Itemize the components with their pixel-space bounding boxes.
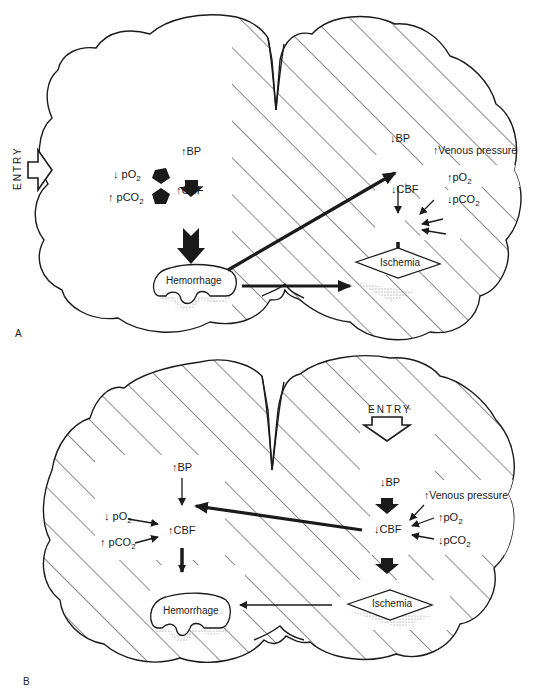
pco2-label-b-left: ↑ pCO2 (100, 537, 136, 551)
venous-label-a: ↑Venous pressure (433, 145, 517, 156)
bp-label-b-left: ↑BP (172, 462, 192, 473)
po2-label-b-left: ↓ pO2 (104, 511, 132, 525)
ischemia-label-a: Ischemia (380, 258, 420, 268)
bp-label-b-right: ↓BP (380, 477, 400, 488)
po2-label-b-right: ↑pO2 (438, 512, 463, 526)
entry-label-b: ENTRY (368, 404, 412, 415)
cbf-label-a-left: ↑CBF (176, 185, 204, 196)
venous-label-b: ↑Venous pressure (424, 490, 508, 501)
hemorrhage-label-b: Hemorrhage (163, 606, 219, 616)
panel-letter-b: B (23, 676, 30, 687)
hemorrhage-label-a: Hemorrhage (166, 276, 222, 286)
po2-label-a-left: ↓ pO2 (113, 169, 141, 183)
bp-label-a-left: ↑BP (181, 146, 201, 157)
pco2-label-a-right: ↓pCO2 (447, 194, 480, 208)
cbf-label-b-left: ↑CBF (168, 525, 196, 536)
ischemia-label-b: Ischemia (372, 599, 412, 609)
bp-label-a-right: ↓BP (390, 133, 410, 144)
entry-label-a: ENTRY (12, 146, 23, 190)
po2-label-a-right: ↑pO2 (447, 172, 472, 186)
diagram-canvas (0, 0, 538, 692)
cbf-label-a-right: ↓CBF (391, 184, 419, 195)
cbf-label-b-right: ↓CBF (374, 524, 402, 535)
pco2-label-b-right: ↓pCO2 (438, 535, 471, 549)
panel-letter-a: A (15, 328, 22, 339)
pco2-label-a-left: ↑ pCO2 (108, 192, 144, 206)
